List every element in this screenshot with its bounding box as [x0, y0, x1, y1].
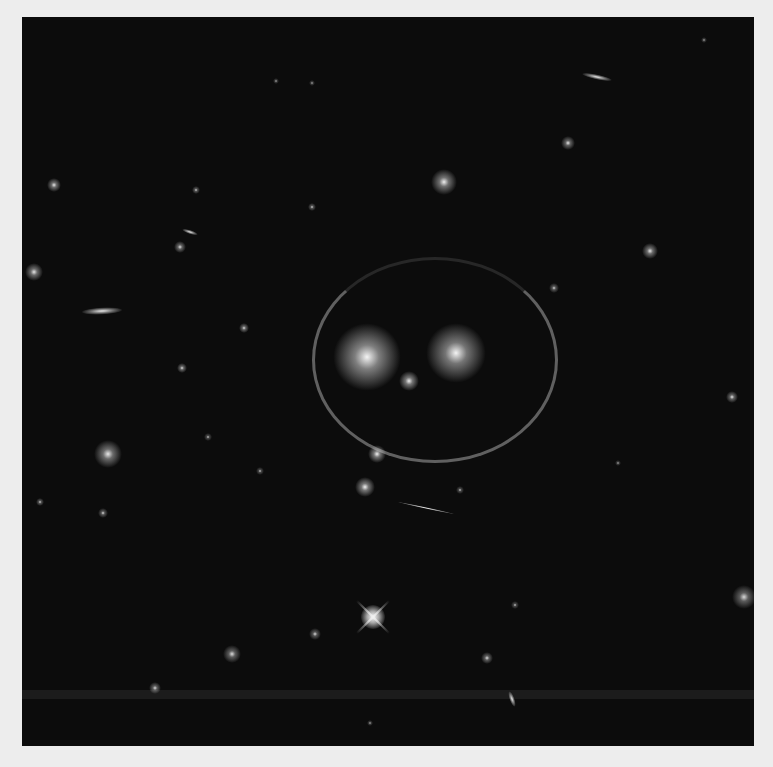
right-edge-galaxy	[732, 585, 754, 609]
left-lower-1	[98, 508, 108, 518]
field-star-7	[456, 486, 464, 494]
mid-galaxy-3	[177, 363, 187, 373]
small-galaxy-1	[368, 445, 386, 463]
field-star-11	[615, 460, 621, 466]
lensed-streak	[396, 501, 455, 515]
field-star-12	[701, 37, 707, 43]
left-eye-galaxy	[333, 323, 401, 391]
spiral-galaxy	[94, 440, 122, 468]
lower-galaxy-1	[481, 652, 493, 664]
lower-galaxy-2	[223, 645, 241, 663]
field-star-10	[204, 433, 212, 441]
field-star-4	[308, 203, 316, 211]
mid-galaxy-2	[239, 323, 249, 333]
lower-galaxy-3	[149, 682, 161, 694]
lower-galaxy-4	[309, 628, 321, 640]
field-star-5	[549, 283, 559, 293]
field-star-9	[367, 720, 373, 726]
detector-artifact-band	[22, 690, 754, 699]
field-star-6	[256, 467, 264, 475]
left-galaxy-2	[47, 178, 61, 192]
left-galaxy-1	[25, 263, 43, 281]
small-galaxy-2	[355, 477, 375, 497]
field-star-3	[273, 78, 279, 84]
left-lower-2	[36, 498, 44, 506]
right-eye-galaxy	[426, 323, 486, 383]
edge-on-galaxy-left	[82, 306, 122, 315]
edge-on-galaxy-mid	[182, 228, 198, 237]
field-star-1	[309, 80, 315, 86]
field-star-2	[192, 186, 200, 194]
edge-on-galaxy-top-right	[582, 71, 612, 82]
right-galaxy-2	[726, 391, 738, 403]
field-star-8	[511, 601, 519, 609]
upper-right-galaxy	[561, 136, 575, 150]
bright-galaxy-top	[431, 169, 457, 195]
right-galaxy-1	[642, 243, 658, 259]
galaxy-cluster-image	[22, 17, 754, 746]
mid-galaxy-1	[174, 241, 186, 253]
nose-galaxy	[399, 371, 419, 391]
